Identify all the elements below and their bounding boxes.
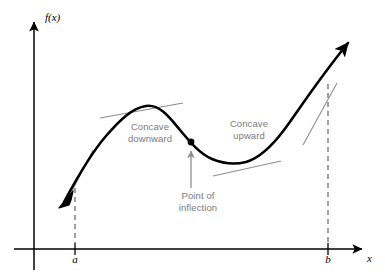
point-of-inflection-annotation: Point of inflection <box>160 190 236 213</box>
curve-start-arrowhead <box>59 191 73 208</box>
x-axis-label: x <box>367 252 372 264</box>
point-of-inflection-line2: inflection <box>160 202 236 214</box>
function-curve <box>64 43 348 202</box>
tangent-right-rising-line <box>303 83 337 145</box>
tick-label-a: a <box>67 253 83 265</box>
concave-upward-annotation: Concave upward <box>210 118 288 141</box>
tick-label-b: b <box>320 253 336 265</box>
diagram-canvas <box>0 0 385 280</box>
concavity-diagram: f(x) x a b Concave downward Concave upwa… <box>0 0 385 280</box>
y-axis-label: f(x) <box>45 11 60 23</box>
concave-upward-line1: Concave <box>210 118 288 130</box>
concave-downward-annotation: Concave downward <box>110 121 190 144</box>
point-of-inflection-line1: Point of <box>160 190 236 202</box>
concave-downward-line2: downward <box>110 133 190 145</box>
concave-upward-line2: upward <box>210 130 288 142</box>
concave-downward-line1: Concave <box>110 121 190 133</box>
tangent-at-maximum-line <box>100 103 183 118</box>
